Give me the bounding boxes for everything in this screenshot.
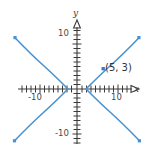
y-tick-label-neg-ten: -10 bbox=[55, 129, 69, 138]
x-axis-label: x bbox=[134, 85, 139, 94]
hyperbola-graph-figure: x y -10 10 10 -10 (5, 3) bbox=[0, 0, 160, 159]
y-axis-arrowhead bbox=[74, 20, 81, 28]
curve-endpoint-lower-right bbox=[138, 139, 141, 142]
plot-canvas bbox=[0, 0, 160, 159]
point-annotation-label: (5, 3) bbox=[105, 63, 132, 73]
curve-endpoint-upper-left bbox=[13, 36, 16, 39]
x-tick-label-pos-ten: 10 bbox=[111, 93, 122, 102]
y-axis-label: y bbox=[73, 9, 78, 18]
curve-endpoint-upper-right bbox=[137, 36, 140, 39]
y-tick-label-pos-ten: 10 bbox=[58, 29, 69, 38]
x-tick-label-neg-ten: -10 bbox=[28, 93, 42, 102]
curve-endpoint-lower-left bbox=[13, 139, 16, 142]
